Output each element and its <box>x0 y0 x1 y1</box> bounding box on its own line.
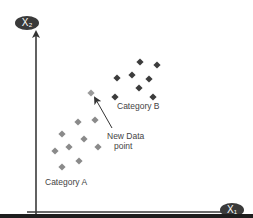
category-a-point <box>51 147 58 154</box>
knn-diagram: X₂ X₁ Category B New Data point Category… <box>0 0 253 218</box>
category-b-point <box>113 74 120 81</box>
category-b-point <box>135 84 142 91</box>
category-a-point <box>58 163 65 170</box>
category-b-point <box>149 93 156 100</box>
category-b-point <box>111 93 118 100</box>
category-b-point <box>153 61 160 68</box>
new-point-label-line1: New Data <box>107 131 144 141</box>
new-point-label-line2: point <box>114 141 132 151</box>
category-a-label: Category A <box>45 177 87 187</box>
category-a-point <box>91 116 98 123</box>
category-a-point <box>94 143 101 150</box>
category-a-point <box>75 157 82 164</box>
category-a-point <box>65 143 72 150</box>
category-b-point <box>145 75 152 82</box>
new-data-point <box>87 89 94 96</box>
data-points <box>51 58 160 170</box>
category-a-point <box>58 130 65 137</box>
category-b-label: Category B <box>117 101 160 111</box>
category-a-point <box>74 118 81 125</box>
category-b-point <box>136 58 143 65</box>
category-a-point <box>80 135 87 142</box>
new-point-arrow <box>95 98 112 128</box>
bottom-border <box>0 214 253 218</box>
y-axis-label: X₂ <box>15 16 39 30</box>
category-b-point <box>128 71 135 78</box>
